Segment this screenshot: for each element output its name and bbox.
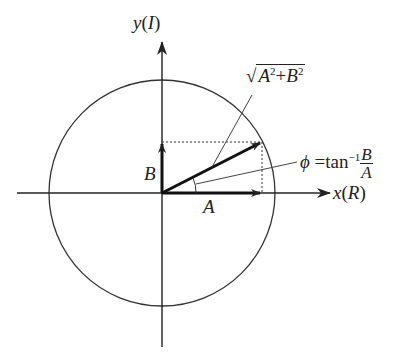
vector-resultant — [162, 143, 260, 193]
magnitude-label: √A2+B2 — [246, 66, 305, 85]
vector-b-label: B — [144, 164, 156, 183]
x-axis-label: x(R) — [333, 183, 366, 202]
phase-label: ϕ =tan−1BA — [300, 146, 373, 181]
y-axis-label: y(I) — [133, 13, 160, 32]
phase-leader — [196, 162, 297, 184]
vector-a-label: A — [203, 197, 215, 216]
angle-arc — [193, 178, 196, 193]
